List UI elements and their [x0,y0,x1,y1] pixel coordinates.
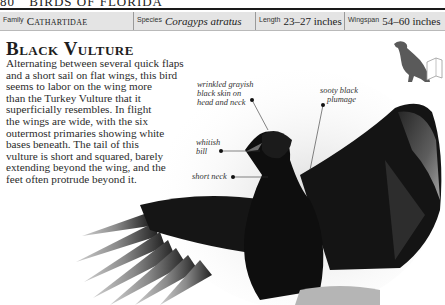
description-line: feet often protrude beyond it. [6,174,166,186]
annotation-plumage: sooty black plumage [320,86,358,104]
annotation-skin: wrinkled grayish black skin on head and … [197,80,254,107]
plumage-leader-line [310,105,323,170]
description-line: Alternating between several quick flaps [6,58,166,70]
annotation-line: short neck [192,172,227,181]
annotation-line: whitish [196,138,220,147]
skin-leader-line [252,100,268,130]
annotation-line: head and neck [197,98,254,107]
annotation-neck: short neck [192,172,227,181]
annotation-line: black skin on [197,89,254,98]
bill-pointer-dot [219,149,223,153]
annotation-line: plumage [320,95,358,104]
annotation-line: wrinkled grayish [197,80,254,89]
annotation-bill: whitish bill [196,138,220,156]
annotation-line: bill [196,147,220,156]
annotation-line: sooty black [320,86,358,95]
description-line: bases beneath. The tail of this [6,139,166,151]
description-line: the wings are wide, with the six [6,116,166,128]
skin-pointer-dot [250,98,254,102]
neck-pointer-dot [231,175,235,179]
perched-vulture-silhouette-icon [392,38,445,86]
plumage-pointer-dot [321,103,325,107]
species-description: Alternating between several quick flaps … [6,58,166,186]
